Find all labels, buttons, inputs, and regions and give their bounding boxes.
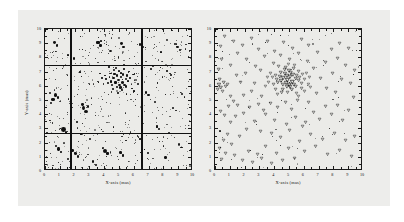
axis-tick-minor: [45, 79, 47, 80]
x-tick-label: 2: [243, 172, 245, 177]
data-point-marker: [233, 154, 236, 157]
data-point-marker: [129, 77, 131, 79]
noise-point: [171, 135, 172, 136]
noise-point: [145, 61, 146, 62]
axis-tick-minor: [126, 29, 127, 31]
data-point-marker: [147, 94, 150, 97]
noise-point: [301, 60, 302, 61]
data-point-marker: [221, 90, 224, 93]
noise-point: [113, 67, 114, 68]
noise-point: [222, 68, 223, 69]
noise-point: [71, 155, 72, 156]
data-point-marker: [293, 157, 296, 160]
data-point-marker: [303, 78, 306, 81]
axis-tick-minor: [356, 167, 357, 169]
axis-tick: [188, 72, 191, 73]
axis-tick: [348, 166, 349, 169]
noise-point: [156, 46, 157, 47]
axis-tick: [188, 29, 191, 30]
data-point-marker: [267, 81, 270, 84]
data-point-marker: [290, 88, 294, 91]
data-point-marker: [270, 132, 273, 135]
noise-point: [166, 77, 167, 78]
noise-point: [104, 61, 105, 62]
noise-point: [53, 55, 54, 56]
x-tick-label: 4: [102, 172, 104, 177]
x-tick-label: 8: [161, 172, 163, 177]
noise-point: [130, 94, 131, 95]
noise-point: [252, 43, 253, 44]
y-tick-label: 3: [203, 125, 211, 130]
noise-point: [155, 74, 156, 75]
data-point-marker: [176, 46, 179, 49]
axis-tick: [178, 29, 179, 32]
axis-tick: [188, 86, 191, 87]
axis-tick-minor: [215, 50, 217, 51]
noise-point: [82, 134, 83, 135]
noise-point: [63, 118, 64, 119]
axis-tick: [45, 29, 48, 30]
noise-point: [128, 34, 129, 35]
data-point-marker: [116, 86, 118, 88]
axis-tick: [304, 29, 305, 32]
axis-tick-minor: [189, 121, 191, 122]
noise-point: [117, 156, 118, 157]
data-point-marker: [272, 83, 275, 86]
data-point-marker: [116, 74, 118, 77]
noise-point: [115, 147, 116, 148]
data-point-marker: [307, 101, 310, 104]
data-point-marker: [77, 155, 80, 158]
axis-tick-minor: [82, 167, 83, 169]
noise-point: [86, 140, 87, 141]
data-point-marker: [79, 71, 81, 73]
axis-tick-minor: [45, 50, 47, 51]
noise-point: [108, 53, 109, 54]
data-point-marker: [309, 86, 312, 89]
data-point-marker: [222, 81, 225, 84]
noise-point: [165, 148, 166, 149]
data-point-marker: [318, 118, 321, 121]
noise-point: [174, 137, 175, 138]
noise-point: [187, 108, 188, 109]
axis-tick-minor: [126, 167, 127, 169]
noise-point: [128, 72, 129, 73]
data-point-marker: [353, 69, 356, 72]
noise-point: [191, 117, 192, 118]
axis-tick: [104, 29, 105, 32]
data-point-marker: [294, 85, 297, 88]
data-point-marker: [73, 57, 75, 59]
axis-tick: [188, 100, 191, 101]
data-point-marker: [103, 83, 104, 85]
noise-point: [80, 130, 81, 131]
noise-point: [58, 162, 59, 163]
axis-tick-minor: [67, 29, 68, 31]
noise-point: [174, 74, 175, 75]
axis-tick: [45, 114, 48, 115]
noise-point: [162, 114, 163, 115]
data-point-marker: [242, 94, 245, 97]
data-point-marker: [259, 130, 262, 133]
noise-point: [358, 67, 359, 68]
axis-tick-minor: [189, 50, 191, 51]
noise-point: [229, 54, 230, 55]
axis-tick-minor: [141, 29, 142, 31]
data-point-marker: [325, 87, 328, 90]
data-point-marker: [67, 158, 70, 161]
axis-tick: [188, 57, 191, 58]
noise-point: [152, 112, 153, 113]
noise-point: [187, 35, 188, 36]
axis-tick: [319, 166, 320, 169]
noise-point: [74, 80, 75, 81]
noise-point: [118, 82, 119, 83]
data-point-marker: [297, 70, 300, 73]
data-point-marker: [91, 97, 93, 99]
noise-point: [293, 53, 294, 54]
noise-point: [158, 90, 159, 91]
x-tick-label: 6: [132, 172, 134, 177]
noise-point: [101, 96, 102, 97]
noise-point: [165, 94, 166, 95]
noise-point: [167, 154, 168, 155]
noise-point: [288, 45, 289, 46]
noise-point: [103, 163, 104, 164]
noise-point: [189, 51, 190, 52]
